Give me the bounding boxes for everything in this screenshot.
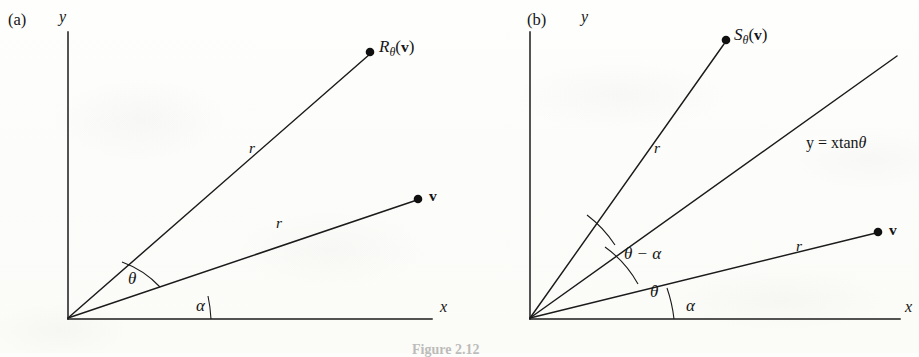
panel-b-y-axis-label: y (581, 9, 588, 25)
panel-b-theta-minus-alpha-arc (587, 215, 615, 245)
panel-a-rotated-vector: v (401, 38, 409, 55)
panel-b-reflected-point-dot (722, 36, 731, 45)
panel-a-v-label: v (429, 188, 437, 204)
panel-a-rotated-close-paren: ) (409, 37, 415, 56)
panel-a-ray-rotated (68, 54, 370, 318)
panel-b-mirror-line-theta: θ (859, 134, 867, 151)
panel-a-alpha-label: α (196, 297, 205, 314)
panel-b-reflected-point-label: Sθ(v) (734, 26, 768, 46)
panel-b-mirror-line-label: y = xtanθ (806, 135, 866, 151)
panel-a-y-axis-label: y (59, 9, 66, 25)
panel-a-x-axis-label: x (440, 299, 447, 315)
panel-b-v-point-dot (874, 228, 883, 237)
panel-a-r-rotated-label: r (249, 140, 255, 156)
panel-a-id-label: (a) (8, 12, 26, 29)
panel-b-r-v-label: r (796, 238, 802, 254)
panel-b-mirror-line-prefix: y = xtan (806, 134, 859, 151)
panel-b-alpha-arc (667, 288, 674, 319)
panel-b-alpha-label: α (686, 297, 695, 314)
panel-b-theta-minus-alpha-label: θ − α (624, 245, 661, 262)
panel-a-r-v-label: r (276, 215, 282, 231)
panel-a-v-point-dot (414, 195, 423, 204)
panel-b-reflected-base: S (734, 25, 743, 44)
panel-b-v-label: v (889, 222, 897, 238)
panel-a-ray-v (68, 200, 417, 318)
panel-b-id-label: (b) (527, 12, 546, 29)
panel-b-reflected-close-paren: ) (762, 25, 768, 44)
panel-b-r-reflected-label: r (654, 140, 660, 156)
panel-b-reflected-vector: v (754, 26, 762, 43)
panel-a-rotated-point-dot (366, 48, 375, 57)
figure-caption: Figure 2.12 (412, 343, 479, 357)
panel-a-alpha-arc (208, 296, 211, 319)
panel-b-theta-label: θ (650, 283, 658, 300)
panel-b-mirror-line (530, 56, 897, 318)
panel-a-rotated-point-label: Rθ(v) (379, 38, 414, 58)
panel-a-theta-label: θ (128, 270, 136, 287)
panel-a-rotated-base: R (379, 37, 389, 56)
panel-b-x-axis-label: x (905, 299, 912, 315)
